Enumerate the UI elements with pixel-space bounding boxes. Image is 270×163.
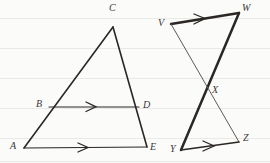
vertex-label-C: C [109, 3, 116, 13]
vertex-label-E: E [150, 142, 156, 152]
vertex-label-V: V [158, 18, 164, 28]
figure-triangle-ace [24, 27, 147, 152]
vertex-label-D: D [143, 100, 150, 110]
figure-bowtie-vwxyz [171, 13, 239, 151]
segment-A-C [24, 27, 113, 148]
segment-V-Z [171, 24, 239, 142]
vertex-label-A: A [10, 141, 16, 151]
vertex-label-W: W [242, 3, 250, 13]
segment-W-Y [181, 13, 239, 150]
vertex-label-X: X [212, 85, 218, 95]
segment-A-E [24, 147, 147, 148]
segment-C-E [113, 27, 147, 147]
vertex-label-Z: Z [243, 133, 249, 143]
segment-Y-Z [181, 142, 239, 150]
diagram-canvas [0, 0, 270, 163]
ruled-paper-lines [0, 19, 270, 162]
notebook-page: ABCDEVWXYZ [0, 0, 270, 163]
vertex-label-Y: Y [170, 144, 176, 154]
vertex-label-B: B [36, 99, 42, 109]
